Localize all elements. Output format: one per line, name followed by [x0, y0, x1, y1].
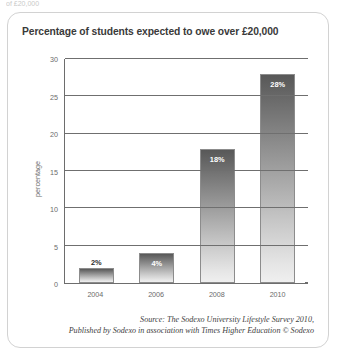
gridline	[65, 133, 308, 134]
y-axis-tick	[305, 58, 308, 59]
gridline	[65, 170, 308, 171]
x-axis-tick-label: 2010	[247, 290, 308, 299]
y-axis-tick	[305, 245, 308, 246]
y-axis-labels: 051015202530	[22, 51, 62, 306]
gridline	[65, 58, 308, 59]
y-axis-tick-label: 0	[54, 280, 58, 289]
bar-2006[interactable]: 4%	[139, 253, 174, 283]
bar-slot: 28%	[260, 59, 295, 283]
y-axis-tick-label: 25	[50, 92, 58, 101]
source-line-1: Source: The Sodexo University Lifestyle …	[69, 315, 314, 326]
y-axis-tick-label: 20	[50, 130, 58, 139]
chart-title: Percentage of students expected to owe o…	[22, 26, 278, 37]
bar-slot: 4%	[139, 59, 174, 283]
x-axis-tick-label: 2004	[65, 290, 126, 299]
gridline	[65, 95, 308, 96]
bar-chart: percentage 051015202530 2%4%18%28% 20042…	[22, 51, 314, 306]
clipped-header-text: of £20,000	[6, 0, 126, 8]
bar-value-label: 2%	[80, 258, 113, 267]
bar-value-label: 28%	[261, 80, 294, 89]
source-note: Source: The Sodexo University Lifestyle …	[69, 315, 314, 336]
bar-2004[interactable]: 2%	[79, 268, 114, 283]
y-axis-tick-label: 5	[54, 242, 58, 251]
y-axis-tick-label: 15	[50, 167, 58, 176]
y-axis-tick	[305, 207, 308, 208]
y-axis-tick-label: 30	[50, 55, 58, 64]
bar-2008[interactable]: 18%	[200, 149, 235, 283]
y-axis-tick-label: 10	[50, 205, 58, 214]
x-axis-labels: 2004200620082010	[65, 286, 308, 298]
chart-panel: Percentage of students expected to owe o…	[7, 12, 329, 348]
bar-value-label: 4%	[140, 259, 173, 268]
bar-slot: 18%	[200, 59, 235, 283]
source-line-2: Published by Sodexo in association with …	[69, 326, 314, 337]
bar-2010[interactable]: 28%	[260, 74, 295, 283]
x-axis-tick-label: 2006	[126, 290, 187, 299]
plot-area: 2%4%18%28%	[64, 59, 308, 284]
bar-value-label: 18%	[201, 155, 234, 164]
y-axis-tick	[305, 170, 308, 171]
y-axis-tick	[305, 282, 308, 283]
y-axis-tick	[305, 133, 308, 134]
gridline	[65, 245, 308, 246]
gridline	[65, 207, 308, 208]
x-axis-tick-label: 2008	[187, 290, 248, 299]
y-axis-tick	[305, 95, 308, 96]
screenshot-root: of £20,000 Percentage of students expect…	[0, 0, 337, 354]
bar-series: 2%4%18%28%	[66, 59, 308, 283]
bar-slot: 2%	[79, 59, 114, 283]
